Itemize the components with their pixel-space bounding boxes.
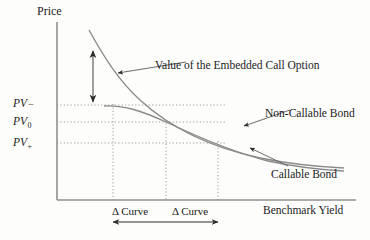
y-tick-pv-minus-base: PV bbox=[13, 97, 27, 109]
y-tick-pv-zero: PV0 bbox=[13, 116, 31, 128]
y-tick-pv-plus-base: PV bbox=[13, 136, 27, 148]
annotation-non-callable-bond: Non-Callable Bond bbox=[265, 108, 355, 120]
y-tick-pv-zero-subscript: 0 bbox=[28, 121, 32, 130]
y-tick-pv-minus-subscript: − bbox=[28, 99, 35, 110]
y-tick-pv-plus: PV+ bbox=[13, 137, 32, 149]
annotation-call-option-value: Value of the Embedded Call Option bbox=[155, 60, 319, 72]
price-yield-chart: Price Benchmark Yield PV− PV0 PV+ Value … bbox=[0, 0, 370, 240]
curve-non-callable-bond bbox=[89, 30, 344, 168]
delta-curve-right-label: Δ Curve bbox=[172, 206, 208, 217]
annotation-callable-bond: Callable Bond bbox=[271, 169, 337, 181]
x-axis-label: Benchmark Yield bbox=[263, 205, 343, 217]
y-axis-label: Price bbox=[37, 5, 62, 17]
y-tick-pv-zero-base: PV bbox=[13, 115, 27, 127]
y-tick-pv-plus-subscript: + bbox=[28, 142, 33, 151]
delta-curve-left-label: Δ Curve bbox=[112, 206, 148, 217]
y-tick-pv-minus: PV− bbox=[13, 98, 34, 110]
